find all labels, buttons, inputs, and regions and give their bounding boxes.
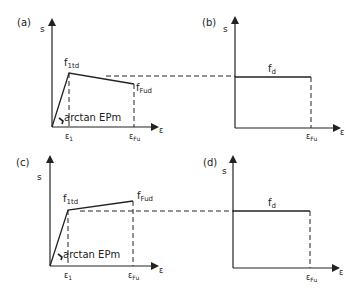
panel-a-slope-label: arctan EPm	[64, 112, 121, 123]
panel-a: (a) s ε f1td fFud arctan EPm ε1 εFu	[17, 17, 235, 142]
panel-d: (d) s ε fd εFu	[203, 157, 343, 283]
panel-c-y-axis-label: s	[37, 172, 42, 182]
panel-c: (c) s ε f1td fFud arctan EPm ε1 εFu	[16, 157, 233, 281]
panel-a-y-axis-label: s	[40, 24, 45, 34]
panel-c-label: (c)	[16, 157, 29, 168]
panel-d-x-axis-label: ε	[339, 268, 343, 277]
panel-a-label: (a)	[17, 17, 31, 28]
panel-c-end-label: fFud	[137, 190, 153, 203]
stress-strain-diagram: (a) s ε f1td fFud arctan EPm ε1 εFu (b) …	[0, 0, 362, 297]
panel-c-peak-label: f1td	[63, 193, 78, 206]
panel-c-slope-arrow-icon	[58, 254, 62, 260]
panel-d-x-tick-eFu: εFu	[306, 273, 317, 283]
panel-b-y-axis-label: s	[223, 24, 228, 34]
panel-c-x-tick-eFu: εFu	[128, 271, 139, 281]
panel-d-y-axis-label: s	[222, 166, 227, 176]
panel-d-fd-label: fd	[268, 197, 276, 210]
panel-b: (b) s ε fd εFu	[202, 17, 344, 142]
panel-c-x-axis-label: ε	[159, 266, 163, 275]
panel-b-label: (b)	[202, 17, 216, 28]
panel-b-x-tick-eFu: εFu	[306, 132, 317, 142]
panel-a-x-tick-eFu: εFu	[129, 132, 140, 142]
panel-a-end-label: fFud	[136, 82, 152, 95]
panel-d-label: (d)	[203, 157, 217, 168]
panel-b-x-axis-label: ε	[340, 128, 344, 137]
panel-c-x-tick-e1: ε1	[64, 271, 72, 281]
panel-c-slope-label: arctan EPm	[63, 249, 120, 260]
panel-b-fd-label: fd	[268, 63, 276, 76]
panel-a-x-axis-label: ε	[159, 126, 163, 135]
panel-a-slope-arrow-icon	[59, 118, 63, 124]
panel-a-peak-label: f1td	[64, 57, 79, 70]
panel-a-x-tick-e1: ε1	[65, 132, 73, 142]
